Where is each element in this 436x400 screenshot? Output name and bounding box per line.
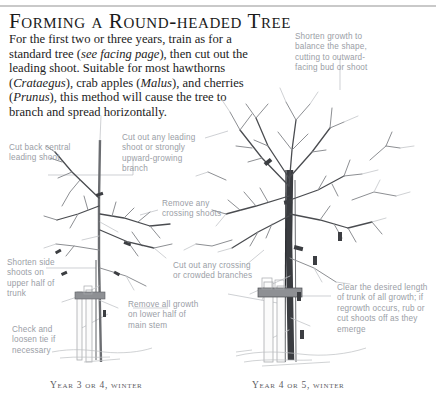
label-remove-crossing-shoots: Remove any crossing shoots xyxy=(162,199,234,220)
label-shorten-growth: Shorten growth to balance the shape, cut… xyxy=(295,32,385,74)
label-cut-back-central: Cut back central leading shoot xyxy=(9,143,79,164)
illustrated-book-page: Forming a Round-headed Tree For the firs… xyxy=(0,0,436,400)
label-cut-out-leading: Cut out any leading shoot or strongly up… xyxy=(122,133,206,175)
top-divider-rule xyxy=(0,5,436,7)
label-shorten-side-shoots: Shorten side shoots on upper half of tru… xyxy=(7,258,61,300)
intro-paragraph: For the first two or three years, train … xyxy=(9,32,249,120)
caption-left-figure: Year 3 or 4, winter xyxy=(50,380,142,390)
label-cut-out-crowded: Cut out any crossing or crowded branches xyxy=(173,261,253,282)
label-check-tie: Check and loosen tie if necessary xyxy=(12,325,74,356)
caption-right-figure: Year 4 or 5, winter xyxy=(252,380,344,390)
label-clear-trunk: Clear the desired length of trunk of all… xyxy=(337,283,431,335)
page-title: Forming a Round-headed Tree xyxy=(9,9,291,34)
label-remove-growth: Remove all growth on lower half of main … xyxy=(128,300,206,331)
